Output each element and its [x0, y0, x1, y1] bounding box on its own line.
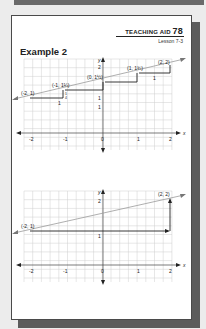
- graph-2-line-left-arrow-icon: [12, 230, 18, 234]
- graph-2-y-tick: 1: [98, 233, 101, 239]
- graph-2-x-tick: -1: [63, 268, 68, 274]
- graph-2-y-axis-up-arrow-icon: [101, 189, 105, 194]
- graph-2-y-axis-label: y: [97, 189, 101, 195]
- graph-2-x-tick: 0: [101, 268, 104, 274]
- graph-2-point-label: (-2, 1): [21, 223, 35, 229]
- graph-2-x-tick: 1: [137, 268, 140, 274]
- graph-2-point-label: (2, 2): [158, 191, 170, 197]
- graph-2-x-tick: 2: [169, 268, 172, 274]
- graph-2-x-axis-right-arrow-icon: [176, 263, 181, 267]
- graph-2-line-right-arrow-icon: [180, 194, 186, 198]
- graph-2-x-tick: -2: [29, 268, 34, 274]
- graph-2-total-slope: x y -2 -1 0 1 2 1 2 (-2, 1) (2, 2): [0, 0, 206, 329]
- graph-2-y-axis-down-arrow-icon: [101, 280, 105, 285]
- graph-2-y-tick: 2: [98, 198, 101, 204]
- graph-2-run-rise: [30, 200, 170, 231]
- graph-2-x-axis-label: x: [182, 262, 186, 268]
- graph-2-run-arrow-icon: [165, 229, 170, 233]
- graph-2-x-axis-left-arrow-icon: [16, 263, 21, 267]
